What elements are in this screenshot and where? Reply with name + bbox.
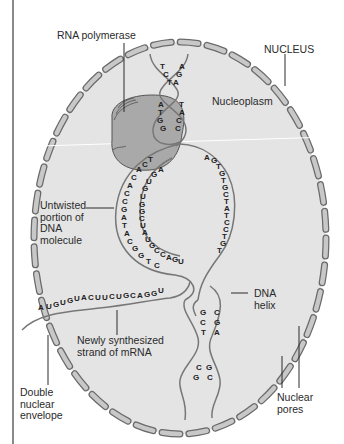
svg-text:A: A (137, 291, 143, 300)
svg-text:G: G (67, 296, 73, 305)
svg-text:C: C (109, 292, 115, 301)
svg-text:U: U (74, 294, 80, 303)
svg-text:C: C (200, 318, 206, 327)
svg-text:T: T (148, 155, 153, 164)
svg-text:C: C (130, 291, 136, 300)
svg-text:A: A (38, 303, 44, 312)
svg-text:T: T (146, 257, 151, 266)
svg-text:A: A (136, 165, 142, 174)
label-nuclear-pores: Nuclear pores (277, 392, 313, 415)
svg-text:A: A (158, 165, 164, 174)
svg-text:G: G (123, 291, 129, 300)
label-dna-helix: DNA helix (254, 288, 276, 311)
svg-text:G: G (144, 290, 150, 299)
svg-text:U: U (116, 292, 122, 301)
svg-text:U: U (95, 293, 101, 302)
svg-text:U: U (158, 286, 164, 295)
svg-text:T: T (201, 328, 206, 337)
svg-text:A: A (173, 78, 179, 87)
label-nuclear-envelope: Double nuclear envelope (20, 387, 63, 422)
svg-text:G: G (53, 300, 59, 309)
svg-text:G: G (151, 170, 157, 179)
label-nucleus: NUCLEUS (264, 44, 314, 56)
svg-text:A: A (81, 293, 87, 302)
svg-text:G: G (206, 363, 212, 372)
svg-text:U: U (178, 257, 184, 266)
label-untwisted-dna: Untwisted portion of DNA molecule (40, 200, 86, 246)
svg-text:C: C (214, 308, 220, 317)
svg-text:G: G (138, 251, 144, 260)
svg-text:T: T (167, 78, 172, 87)
label-nucleoplasm: Nucleoplasm (212, 96, 273, 108)
svg-text:G: G (200, 308, 206, 317)
svg-text:U: U (60, 298, 66, 307)
label-rna-polymerase: RNA polymerase (57, 30, 136, 42)
svg-text:G: G (214, 318, 220, 327)
svg-text:C: C (207, 373, 213, 382)
svg-text:A: A (204, 153, 210, 162)
svg-text:U: U (46, 302, 52, 311)
svg-text:C: C (175, 124, 181, 133)
svg-text:C: C (154, 261, 160, 270)
svg-text:G: G (160, 124, 166, 133)
svg-text:T: T (217, 246, 222, 255)
svg-text:U: U (102, 293, 108, 302)
svg-text:G: G (193, 373, 199, 382)
label-mrna-strand: Newly synthesized strand of mRNA (77, 335, 164, 358)
svg-text:A: A (214, 328, 220, 337)
svg-text:G: G (151, 289, 157, 298)
svg-text:C: C (142, 160, 148, 169)
svg-text:C: C (196, 363, 202, 372)
svg-text:C: C (88, 293, 94, 302)
